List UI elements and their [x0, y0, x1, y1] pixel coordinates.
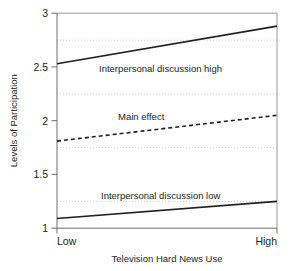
ytick-label-1: 1: [42, 222, 48, 234]
xtick-label-low: Low: [57, 235, 77, 247]
x-axis-title: Television Hard News Use: [112, 253, 223, 264]
series-label-interpersonal-discussion-high: Interpersonal discussion high: [99, 63, 222, 74]
xtick-label-high: High: [255, 235, 277, 247]
ytick-label-1-5: 1.5: [33, 168, 48, 180]
ytick-label-2-5: 2.5: [33, 61, 48, 73]
series-label-main-effect: Main effect: [118, 111, 165, 122]
ytick-label-2: 2: [42, 115, 48, 127]
ytick-label-3: 3: [42, 7, 48, 19]
series-label-interpersonal-discussion-low: Interpersonal discussion low: [101, 190, 220, 201]
chart-figure: 3 2.5 2 1.5 1 Low High Television Hard N…: [0, 0, 301, 271]
levels-of-participation-line-chart: 3 2.5 2 1.5 1 Low High Television Hard N…: [0, 0, 301, 271]
y-axis-title: Levels of Participation: [8, 74, 19, 167]
